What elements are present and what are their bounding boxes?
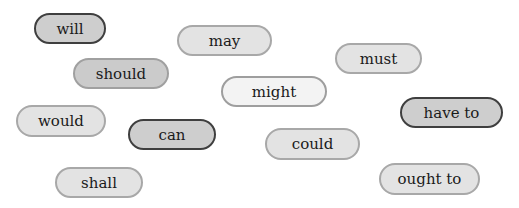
pill-shall[interactable]: shall <box>55 167 143 198</box>
pill-should[interactable]: should <box>73 58 169 89</box>
pill-label: must <box>360 50 398 68</box>
pill-label: may <box>209 32 241 50</box>
pill-label: have to <box>424 104 480 122</box>
pill-may[interactable]: may <box>177 25 272 56</box>
pill-label: might <box>252 83 296 101</box>
pill-label: will <box>56 20 83 38</box>
pill-would[interactable]: would <box>16 105 106 137</box>
pill-label: could <box>292 135 334 153</box>
pill-label: should <box>96 65 146 83</box>
pill-could[interactable]: could <box>265 128 360 160</box>
pill-might[interactable]: might <box>221 76 327 107</box>
pill-must[interactable]: must <box>335 43 422 74</box>
pill-label: can <box>158 126 185 144</box>
pill-ought-to[interactable]: ought to <box>379 163 480 195</box>
pill-label: ought to <box>398 170 462 188</box>
pill-label: shall <box>81 174 117 192</box>
pill-label: would <box>38 112 84 130</box>
pill-will[interactable]: will <box>34 13 106 44</box>
pill-have-to[interactable]: have to <box>400 97 503 128</box>
pill-can[interactable]: can <box>128 119 216 150</box>
